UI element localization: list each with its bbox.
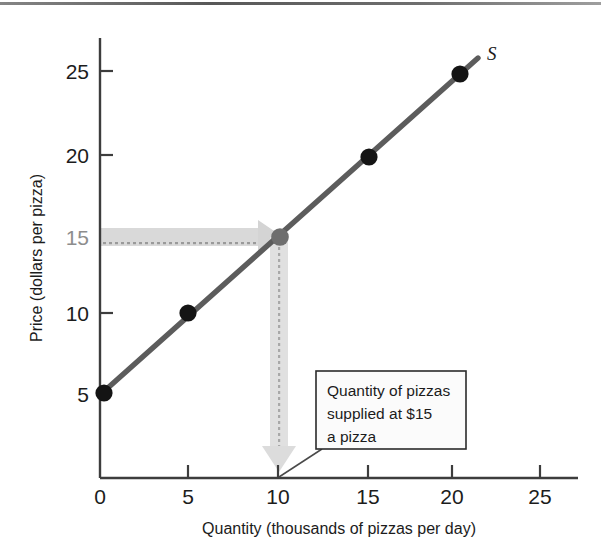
ytick-label-15: 15 (66, 226, 89, 249)
x-axis-title: Quantity (thousands of pizzas per day) (202, 520, 476, 537)
ytick-label-10: 10 (66, 302, 89, 325)
ytick-label-5: 5 (77, 383, 89, 406)
xtick-label-15: 15 (356, 485, 379, 508)
ytick-label-25: 25 (66, 60, 89, 83)
y-axis-title: Price (dollars per pizza) (28, 174, 45, 342)
callout-line-1: Quantity of pizzas (327, 382, 450, 399)
xtick-label-10: 10 (266, 485, 289, 508)
figure-canvas: 25 20 15 10 5 0 5 10 15 20 25 Quantity (… (0, 0, 601, 546)
xtick-label-5: 5 (182, 485, 194, 508)
supply-curve-label: S (487, 43, 497, 64)
ytick-label-20: 20 (66, 144, 89, 167)
xtick-label-25: 25 (528, 485, 551, 508)
chart-text-layer: 25 20 15 10 5 0 5 10 15 20 25 Quantity (… (0, 0, 601, 546)
xtick-label-0: 0 (94, 485, 106, 508)
callout-line-2: supplied at $15 (327, 405, 432, 422)
xtick-label-20: 20 (440, 485, 463, 508)
callout-line-3: a pizza (327, 428, 376, 445)
